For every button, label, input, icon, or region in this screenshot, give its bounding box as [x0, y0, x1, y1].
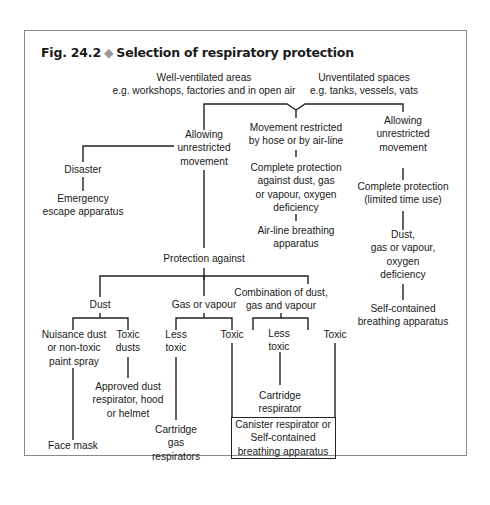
node-allowing-left: Allowing unrestricted movement	[177, 128, 230, 168]
node-cartridge-respirator: Cartridge respirator	[258, 389, 301, 416]
node-canister-respirator: Canister respirator or Self-contained br…	[235, 418, 331, 458]
node-well-ventilated: Well-ventilated areas e.g. workshops, fa…	[113, 71, 296, 98]
node-protection-against: Protection against	[163, 252, 245, 265]
node-airline-apparatus: Air-line breathing apparatus	[257, 224, 334, 251]
node-gas-less-toxic: Less toxic	[165, 328, 187, 355]
node-emergency-escape: Emergency escape apparatus	[43, 192, 124, 219]
node-gas-toxic: Toxic	[220, 328, 243, 341]
node-combo-toxic: Toxic	[323, 328, 346, 341]
node-dust-gas-oxygen: Dust, gas or vapour, oxygen deficiency	[371, 228, 436, 281]
node-unventilated: Unventilated spaces e.g. tanks, vessels,…	[310, 71, 418, 98]
node-face-mask: Face mask	[48, 439, 98, 452]
node-toxic-dusts: Toxic dusts	[116, 328, 140, 355]
node-allowing-right: Allowing unrestricted movement	[376, 114, 429, 154]
node-approved-dust-respirator: Approved dust respirator, hood or helmet	[93, 380, 164, 420]
node-complete-protection-airline: Complete protection against dust, gas or…	[250, 161, 341, 214]
node-disaster: Disaster	[64, 163, 101, 176]
node-movement-restricted: Movement restricted by hose or by air-li…	[249, 121, 344, 148]
node-self-contained-right: Self-contained breathing apparatus	[358, 302, 449, 329]
node-dust: Dust	[90, 298, 111, 311]
node-complete-protection-limited: Complete protection (limited time use)	[357, 180, 448, 207]
node-combo-less-toxic: Less toxic	[268, 327, 290, 354]
node-combination: Combination of dust, gas and vapour	[234, 286, 327, 313]
node-cartridge-gas-respirators: Cartridge gas respirators	[152, 423, 200, 463]
node-gas-or-vapour: Gas or vapour	[172, 298, 237, 311]
node-nuisance-dust: Nuisance dust or non-toxic paint spray	[42, 328, 107, 368]
